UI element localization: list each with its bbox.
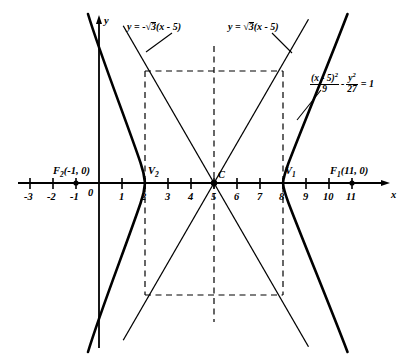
sqrt-icon-negative: √3: [145, 21, 156, 32]
equation-x-exponent: 2: [335, 71, 338, 78]
focus-left-coords: (-1, 0): [64, 165, 90, 176]
equation-y-exponent: 2: [353, 71, 356, 78]
vertex-right-name: V: [285, 165, 292, 176]
x-tick-label-1: 1: [119, 192, 124, 203]
hyperbola-figure: y x -3 -2 -1 0 1 2 3 4 5 6 7 8 9 10 11 F…: [0, 0, 412, 363]
asymptote-negative-radicand: 3: [151, 21, 156, 32]
x-tick-label-3: 3: [165, 192, 170, 203]
x-tick-label-10: 10: [323, 192, 334, 203]
asymptote-negative-suffix: (x - 5): [156, 21, 181, 32]
x-tick-label-5: 5: [211, 192, 216, 203]
asymptote-negative-leader: [146, 33, 172, 52]
asymptote-positive-prefix: y =: [228, 21, 243, 32]
equation-y-denominator: 27: [346, 85, 358, 95]
equation-equals-one: = 1: [358, 78, 374, 89]
x-tick-label--3: -3: [24, 192, 33, 203]
x-tick-label-4: 4: [188, 192, 193, 203]
focus-left-dot: [73, 180, 78, 185]
asymptote-positive-label: y = √3(x - 5): [228, 21, 279, 32]
equation-x-denominator: 9: [310, 85, 339, 95]
sqrt-icon-positive: √3: [243, 21, 254, 32]
x-tick-label-2: 2: [141, 192, 146, 203]
focus-right-name: F: [330, 165, 337, 176]
focus-right-dot: [349, 180, 354, 185]
y-axis-label: y: [104, 16, 109, 27]
equation-y-fraction: y2 27: [346, 72, 358, 95]
asymptote-negative-label: y = -√3(x - 5): [127, 21, 181, 32]
vertex-left-subscript: 2: [155, 170, 159, 179]
focus-right-label: F1(11, 0): [330, 166, 368, 179]
focus-right-coords: (11, 0): [341, 165, 368, 176]
focus-left-label: F2(-1, 0): [53, 166, 90, 179]
x-tick-label-0: 0: [88, 188, 93, 199]
center-label: C: [218, 170, 225, 181]
vertex-left-label: V2: [148, 166, 159, 179]
equation-x-fraction: (x - 5)2 9: [310, 72, 339, 95]
x-tick-label-7: 7: [257, 192, 262, 203]
asymptote-negative-prefix: y = -: [127, 21, 145, 32]
x-tick-label--2: -2: [47, 192, 56, 203]
hyperbola-equation-label: (x - 5)2 9 - y2 27 = 1: [310, 72, 374, 95]
vertex-right-label: V1: [285, 166, 296, 179]
x-tick-label--1: -1: [70, 192, 79, 203]
y-axis: [96, 15, 102, 348]
x-axis-label: x: [391, 190, 396, 201]
asymptote-negative-line: [123, 26, 308, 347]
asymptote-positive-leader: [272, 33, 292, 53]
x-tick-label-9: 9: [303, 192, 308, 203]
plot-canvas: [0, 0, 412, 363]
asymptote-positive-line: [123, 19, 308, 340]
focus-left-name: F: [53, 165, 60, 176]
vertex-left-name: V: [148, 165, 155, 176]
x-tick-label-6: 6: [234, 192, 239, 203]
asymptote-positive-suffix: (x - 5): [254, 21, 279, 32]
vertex-right-subscript: 1: [292, 170, 296, 179]
equation-minus-sign: -: [339, 78, 346, 89]
x-tick-label-8: 8: [279, 192, 284, 203]
x-tick-label-11: 11: [346, 192, 356, 203]
asymptote-positive-radicand: 3: [249, 21, 254, 32]
